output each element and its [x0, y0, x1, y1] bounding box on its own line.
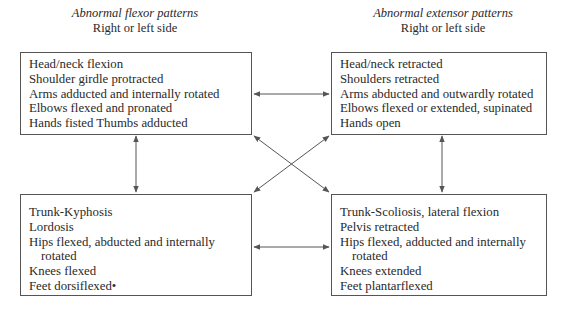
connector-arrows: [0, 0, 564, 313]
